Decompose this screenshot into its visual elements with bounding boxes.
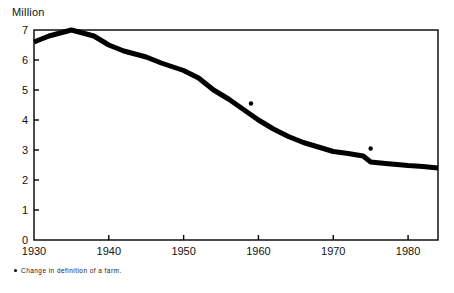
plot-frame xyxy=(34,30,438,240)
x-tick-label: 1950 xyxy=(171,246,195,257)
footnote: Change in definition of a farm. xyxy=(14,266,122,275)
y-tick-label: 5 xyxy=(6,85,28,96)
change-marker-dot-icon xyxy=(14,269,17,272)
y-tick-label: 4 xyxy=(6,115,28,126)
data-series-line xyxy=(34,30,438,168)
plot-canvas xyxy=(0,0,454,293)
y-tick-label: 3 xyxy=(6,145,28,156)
x-tick-label: 1930 xyxy=(22,246,46,257)
y-tick-label: 2 xyxy=(6,175,28,186)
x-tick-label: 1980 xyxy=(396,246,420,257)
x-tick-label: 1940 xyxy=(97,246,121,257)
y-axis-ticks xyxy=(34,60,39,210)
definition-change-1975-marker xyxy=(368,146,372,150)
x-axis-ticks xyxy=(109,235,408,240)
footnote-text: Change in definition of a farm. xyxy=(21,267,122,274)
definition-change-1959-marker xyxy=(249,101,253,105)
y-tick-label: 6 xyxy=(6,55,28,66)
x-tick-label: 1970 xyxy=(321,246,345,257)
farms-line-chart: Million 01234567 19301940195019601970198… xyxy=(0,0,454,293)
x-tick-label: 1960 xyxy=(246,246,270,257)
y-tick-label: 7 xyxy=(6,25,28,36)
y-tick-label: 1 xyxy=(6,205,28,216)
y-tick-label: 0 xyxy=(6,235,28,246)
